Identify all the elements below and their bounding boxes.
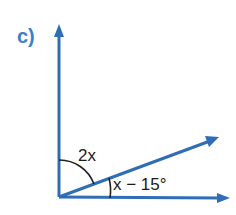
horizontal-ray (59, 193, 230, 203)
angle-lower-label: x − 15° (113, 176, 167, 193)
arrowhead-icon (54, 24, 64, 37)
angle-upper-label: 2x (78, 147, 96, 164)
arrowhead-icon (205, 136, 219, 147)
vertical-ray (54, 24, 64, 197)
arrowhead-icon (217, 193, 230, 203)
angle-diagram: c) 2x x − 15° (0, 0, 236, 215)
angle-arc-lower (109, 178, 111, 198)
